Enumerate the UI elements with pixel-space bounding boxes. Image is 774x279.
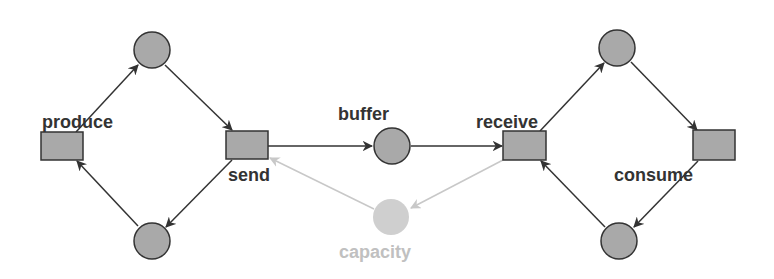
place-capacity[interactable] <box>373 199 409 235</box>
label-buffer: buffer <box>338 104 389 124</box>
place-producer-ready[interactable] <box>134 32 170 68</box>
consumer-arcs <box>540 62 698 227</box>
arc-place-to-consume <box>631 62 697 130</box>
place-consumer-ready[interactable] <box>599 30 635 66</box>
place-producer-idle[interactable] <box>134 223 170 259</box>
label-consume: consume <box>614 165 693 185</box>
transition-send[interactable] <box>226 131 268 159</box>
producer-arcs <box>76 65 232 227</box>
place-buffer[interactable] <box>374 128 410 164</box>
transition-receive[interactable] <box>503 131 546 160</box>
arc-send-to-place <box>166 160 232 227</box>
arc-place-to-receive <box>541 161 605 227</box>
place-consumer-idle[interactable] <box>601 223 637 259</box>
transition-consume[interactable] <box>693 130 735 160</box>
arc-receive-to-place <box>540 63 604 131</box>
petri-net-diagram: produce send receive consume buffer capa… <box>0 0 774 279</box>
transition-produce[interactable] <box>41 132 83 160</box>
label-receive: receive <box>476 112 538 132</box>
label-produce: produce <box>42 112 113 132</box>
arc-capacity-to-send <box>270 158 374 209</box>
label-capacity: capacity <box>339 242 411 262</box>
arc-place-to-produce <box>77 161 138 226</box>
arc-place-to-send <box>165 65 232 130</box>
arc-receive-to-capacity <box>411 160 503 208</box>
label-send: send <box>228 165 270 185</box>
